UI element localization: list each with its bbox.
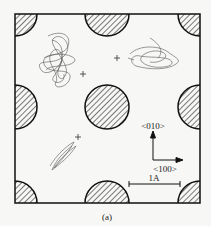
label-010: <010> <box>141 121 165 131</box>
axis-arrows <box>151 131 184 163</box>
plus-marker-3 <box>75 134 81 140</box>
trace-top-right <box>128 38 178 69</box>
plus-marker-2 <box>114 55 120 61</box>
scale-bar-label: 1A <box>149 173 161 183</box>
atom-right <box>178 85 211 129</box>
atom-corner-tl <box>0 0 37 36</box>
plus-marker-1 <box>80 71 86 77</box>
arrow-100-head <box>176 158 183 163</box>
atom-center <box>85 85 129 129</box>
trace-top-left <box>39 33 70 87</box>
atoms <box>0 0 211 225</box>
figure-caption: (a) <box>102 212 112 222</box>
lattice-diagram: <010> <100> 1A (a) <box>0 0 211 226</box>
atom-top <box>85 0 129 36</box>
trace-bottom-left <box>50 142 76 170</box>
atom-corner-tr <box>178 0 211 36</box>
arrow-010-head <box>151 131 156 138</box>
atom-left <box>0 85 37 129</box>
